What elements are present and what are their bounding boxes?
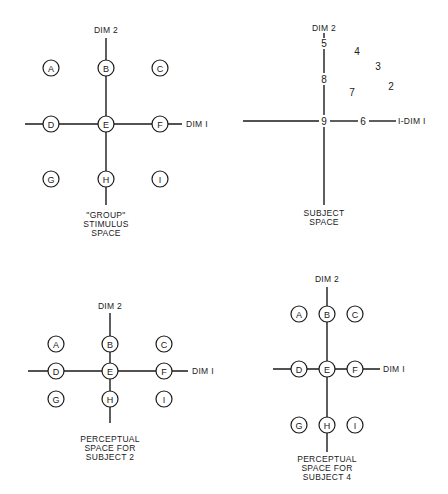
- svg-text:E: E: [324, 365, 330, 375]
- svg-text:A: A: [296, 310, 302, 320]
- svg-text:E: E: [103, 120, 109, 130]
- subject-point-9: 9: [321, 116, 327, 127]
- svg-text:C: C: [161, 340, 168, 350]
- subject-4-perceptual-space-panel: DIM 2 DIM I A B C D E F G H I PERCEPTUAL…: [273, 274, 405, 482]
- stimulus-node-b: B: [319, 306, 335, 322]
- subject-2-perceptual-space-panel: DIM 2 DIM I A B C D E F G H I PERCEPTUAL…: [28, 301, 214, 462]
- dim1-label: I-DIM I: [398, 116, 426, 126]
- caption-line-3: SUBJECT 2: [86, 452, 134, 462]
- caption-line-3: SPACE: [91, 228, 121, 238]
- dim2-label: DIM 2: [312, 23, 336, 33]
- subject-point-3: 3: [375, 61, 381, 72]
- stimulus-node-i: I: [152, 171, 168, 187]
- stimulus-node-b: B: [102, 336, 118, 352]
- svg-text:H: H: [324, 421, 331, 431]
- stimulus-node-g: G: [291, 417, 307, 433]
- svg-text:B: B: [107, 340, 113, 350]
- stimulus-node-h: H: [98, 171, 114, 187]
- stimulus-node-g: G: [48, 391, 64, 407]
- stimulus-node-b: B: [98, 60, 114, 76]
- subject-space-panel: DIM 2 I-DIM I 5 4 3 8 2 7 9 6 SUBJECT SP…: [243, 23, 426, 227]
- svg-text:C: C: [352, 310, 359, 320]
- stimulus-node-f: F: [152, 116, 168, 132]
- dim1-label: DIM I: [383, 364, 405, 374]
- svg-text:F: F: [161, 367, 167, 377]
- svg-text:A: A: [48, 64, 54, 74]
- stimulus-node-i: I: [347, 417, 363, 433]
- svg-text:F: F: [352, 365, 358, 375]
- svg-text:G: G: [47, 175, 54, 185]
- svg-text:B: B: [324, 310, 330, 320]
- subject-point-4: 4: [354, 46, 360, 57]
- stimulus-node-i: I: [156, 391, 172, 407]
- stimulus-node-d: D: [48, 363, 64, 379]
- svg-text:F: F: [157, 120, 163, 130]
- stimulus-node-f: F: [347, 361, 363, 377]
- stimulus-node-d: D: [43, 116, 59, 132]
- stimulus-node-e: E: [319, 361, 335, 377]
- svg-text:H: H: [103, 175, 110, 185]
- group-stimulus-space-panel: DIM 2 DIM I A B C D E F G H I "GROUP" ST…: [25, 25, 208, 238]
- svg-text:C: C: [157, 64, 164, 74]
- svg-text:G: G: [295, 421, 302, 431]
- stimulus-node-c: C: [347, 306, 363, 322]
- svg-text:D: D: [48, 120, 55, 130]
- stimulus-node-h: H: [102, 391, 118, 407]
- svg-text:G: G: [52, 395, 59, 405]
- dim2-label: DIM 2: [315, 274, 339, 284]
- dim1-label: DIM I: [192, 366, 214, 376]
- stimulus-node-h: H: [319, 417, 335, 433]
- svg-text:I: I: [163, 395, 166, 405]
- subject-point-5: 5: [321, 38, 327, 49]
- subject-point-8: 8: [321, 74, 327, 85]
- svg-text:B: B: [103, 64, 109, 74]
- stimulus-node-c: C: [156, 336, 172, 352]
- dim2-label: DIM 2: [94, 25, 118, 35]
- indscal-diagram: DIM 2 DIM I A B C D E F G H I "GROUP" ST…: [0, 0, 448, 494]
- stimulus-node-a: A: [48, 336, 64, 352]
- stimulus-node-f: F: [156, 363, 172, 379]
- svg-text:D: D: [296, 365, 303, 375]
- svg-text:D: D: [53, 367, 60, 377]
- svg-text:I: I: [159, 175, 162, 185]
- dim1-label: DIM I: [186, 119, 208, 129]
- caption-line-3: SUBJECT 4: [303, 472, 351, 482]
- subject-point-7: 7: [349, 87, 355, 98]
- svg-text:A: A: [53, 340, 59, 350]
- svg-text:E: E: [107, 367, 113, 377]
- caption-line-2: SPACE: [309, 217, 339, 227]
- stimulus-node-a: A: [43, 60, 59, 76]
- stimulus-node-d: D: [291, 361, 307, 377]
- stimulus-node-a: A: [291, 306, 307, 322]
- svg-text:H: H: [107, 395, 114, 405]
- svg-text:I: I: [354, 421, 357, 431]
- stimulus-node-g: G: [43, 171, 59, 187]
- stimulus-node-e: E: [102, 363, 118, 379]
- subject-point-6: 6: [360, 116, 366, 127]
- stimulus-node-c: C: [152, 60, 168, 76]
- stimulus-node-e: E: [98, 116, 114, 132]
- dim2-label: DIM 2: [98, 301, 122, 311]
- subject-point-2: 2: [388, 81, 394, 92]
